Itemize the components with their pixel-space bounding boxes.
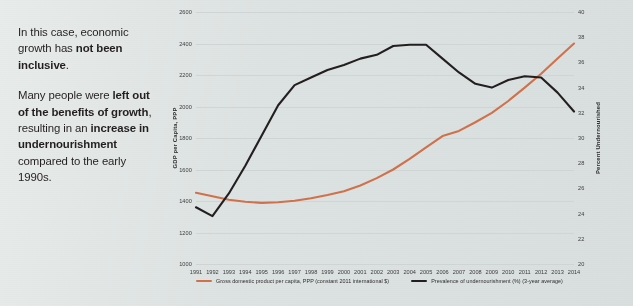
series-line [196, 45, 574, 216]
legend-label: Gross domestic product per capita, PPP (… [216, 278, 389, 284]
y-axis-right-tick-label: 36 [578, 59, 584, 65]
narrative-paragraph-2: Many people were left out of the benefit… [18, 87, 158, 185]
x-axis-tick-label: 2009 [486, 269, 498, 275]
x-axis-tick-label: 2005 [420, 269, 432, 275]
y-axis-right-tick-label: 20 [578, 261, 584, 267]
x-axis-tick-label: 2000 [338, 269, 350, 275]
x-axis-tick-label: 1991 [190, 269, 202, 275]
y-axis-right-tick-label: 26 [578, 185, 584, 191]
x-axis-tick-label: 1992 [206, 269, 218, 275]
y-axis-left-tick-label: 2400 [179, 41, 192, 47]
y-axis-left-tick-label: 1400 [179, 198, 192, 204]
y-axis-left-tick-label: 2600 [179, 9, 192, 15]
y-axis-left-tick-label: 1600 [179, 167, 192, 173]
x-axis-tick-label: 2011 [519, 269, 531, 275]
y-axis-left-tick-label: 1000 [179, 261, 192, 267]
chart-container: 100012001400160018002000220024002600 202… [168, 6, 620, 302]
y-axis-right-title: Percent Undernourished [595, 102, 601, 174]
x-axis-tick-label: 2003 [387, 269, 399, 275]
y-axis-left-tick-label: 1800 [179, 135, 192, 141]
y-axis-right-tick-label: 28 [578, 160, 584, 166]
legend-label: Prevalence of undernourishment (%) (3-ye… [431, 278, 563, 284]
x-axis-tick-label: 2010 [502, 269, 514, 275]
legend-item[interactable]: Gross domestic product per capita, PPP (… [196, 278, 389, 284]
x-axis-tick-label: 1994 [239, 269, 251, 275]
chart-legend: Gross domestic product per capita, PPP (… [196, 278, 596, 284]
x-axis-tick-label: 2001 [354, 269, 366, 275]
gridline [196, 264, 574, 265]
x-axis-tick-label: 1995 [256, 269, 268, 275]
x-axis-tick-label: 2012 [535, 269, 547, 275]
y-axis-right-tick-label: 38 [578, 34, 584, 40]
y-axis-right-tick-label: 30 [578, 135, 584, 141]
narrative-paragraph-1: In this case, economic growth has not be… [18, 24, 158, 73]
legend-color-swatch [411, 280, 427, 282]
x-axis-tick-label: 2004 [403, 269, 415, 275]
x-axis-tick-label: 1993 [223, 269, 235, 275]
x-axis-tick-label: 2007 [453, 269, 465, 275]
x-axis-tick-label: 2014 [568, 269, 580, 275]
y-axis-right-tick-label: 34 [578, 85, 584, 91]
infographic-root: In this case, economic growth has not be… [0, 0, 633, 306]
y-axis-right-tick-label: 32 [578, 110, 584, 116]
x-axis-tick-label: 1996 [272, 269, 284, 275]
legend-color-swatch [196, 280, 212, 282]
y-axis-left-tick-label: 2200 [179, 72, 192, 78]
x-axis-tick-label: 2008 [469, 269, 481, 275]
y-axis-right-tick-label: 22 [578, 236, 584, 242]
y-axis-right-tick-label: 40 [578, 9, 584, 15]
plot-area: 100012001400160018002000220024002600 202… [196, 12, 574, 264]
x-axis-tick-label: 2013 [551, 269, 563, 275]
series-lines [196, 12, 574, 264]
y-axis-right-tick-label: 24 [578, 211, 584, 217]
y-axis-left-tick-label: 2000 [179, 104, 192, 110]
x-axis-tick-label: 1998 [305, 269, 317, 275]
x-axis-tick-label: 1997 [288, 269, 300, 275]
y-axis-left-title: GDP per Capita, PPP [172, 107, 178, 168]
narrative-panel: In this case, economic growth has not be… [18, 24, 158, 200]
x-axis-tick-label: 2006 [436, 269, 448, 275]
y-axis-left-tick-label: 1200 [179, 230, 192, 236]
series-line [196, 44, 574, 203]
legend-item[interactable]: Prevalence of undernourishment (%) (3-ye… [411, 278, 563, 284]
x-axis-tick-label: 2002 [371, 269, 383, 275]
x-axis-tick-label: 1999 [321, 269, 333, 275]
